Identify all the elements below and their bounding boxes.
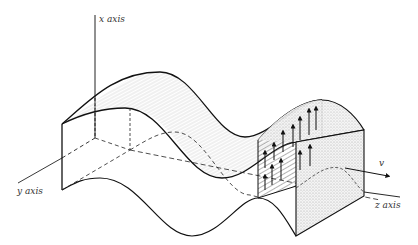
x-axis-label: x axis [99,14,125,24]
z-axis-label: z axis [375,200,401,210]
y-axis-label: y axis [17,186,43,196]
velocity-label: v [379,158,384,168]
z-axis-line [364,192,400,197]
wave-diagram: x axis y axis z axis v [0,0,418,245]
front-face [296,130,364,236]
diagram-drawing [0,0,418,245]
y-axis-line [18,158,62,183]
